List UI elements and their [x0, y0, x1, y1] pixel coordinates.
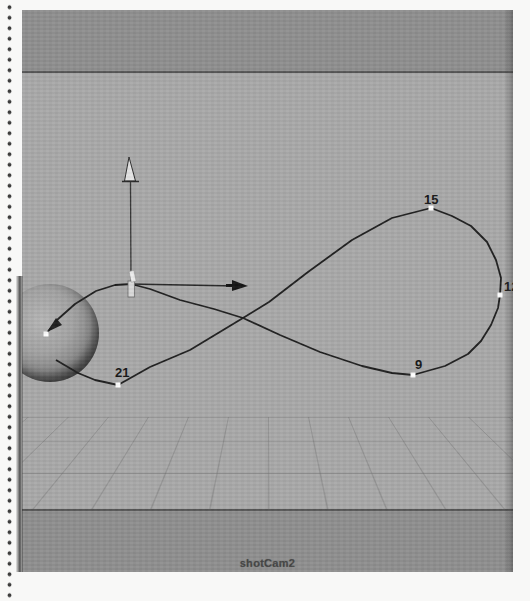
y-axis-line — [131, 181, 132, 284]
page: { "figure": { "camera_label": "shotCam2"… — [0, 0, 530, 601]
keyframe-label-15: 15 — [424, 193, 438, 206]
keyframe-marker-12[interactable] — [498, 293, 503, 298]
y-axis-arrow-icon[interactable] — [125, 157, 136, 181]
keyframe-marker-21[interactable] — [116, 383, 121, 388]
motion-path-curve[interactable] — [46, 208, 501, 385]
camera-name-label: shotCam2 — [22, 557, 513, 569]
dotted-page-border — [5, 2, 14, 601]
move-manipulator — [122, 157, 248, 297]
keyframe-label-9: 9 — [415, 358, 422, 371]
manipulator-center-flag — [129, 270, 136, 282]
keyframe-label-12: 12 — [504, 280, 513, 293]
x-axis-line — [131, 284, 235, 286]
path-end-marker[interactable] — [44, 332, 49, 337]
camera-mask-bottom: shotCam2 — [22, 509, 513, 572]
keyframe-label-21: 21 — [115, 366, 129, 379]
manipulator-center-handle[interactable] — [128, 281, 135, 297]
scan-shadow-artifact — [16, 276, 23, 572]
camera-mask-top — [22, 10, 513, 73]
maya-viewport-figure[interactable]: 15 12 9 21 shotCam2 — [22, 10, 513, 572]
scene-overlay — [22, 10, 513, 572]
keyframe-marker-9[interactable] — [411, 373, 416, 378]
path-direction-arrow-icon — [47, 318, 62, 332]
